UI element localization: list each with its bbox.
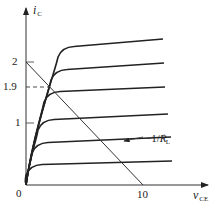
load-line-label-subscript: L [166, 138, 170, 146]
load-line-label: −1/R′L [145, 133, 170, 146]
x-axis-label-subscript: CE [199, 195, 208, 203]
characteristic-curve-2 [26, 63, 164, 185]
y-tick-label-2: 2 [12, 56, 18, 67]
characteristic-curve-4 [26, 114, 168, 185]
y-axis-label-main: i [33, 3, 36, 17]
y-tick-label-1: 1 [15, 117, 21, 128]
x-tick-label-10: 10 [137, 189, 148, 200]
characteristic-curves [25, 39, 172, 185]
y-tick-label-1-9: 1.9 [3, 81, 17, 92]
x-axis-label: vCE [193, 189, 208, 203]
x-axis-label-main: v [193, 188, 198, 202]
transistor-characteristic-diagram: iC 2 1.9 1 0 10 vCE −1/R′L [0, 0, 218, 208]
characteristic-curve-6 [25, 161, 172, 185]
origin-label: 0 [16, 188, 22, 199]
load-line-label-prime: ′ [164, 133, 165, 139]
y-axis-label: iC [33, 4, 42, 18]
load-line-label-prefix: −1/ [145, 132, 160, 144]
y-axis-label-subscript: C [37, 10, 42, 18]
plot-canvas [0, 0, 218, 208]
